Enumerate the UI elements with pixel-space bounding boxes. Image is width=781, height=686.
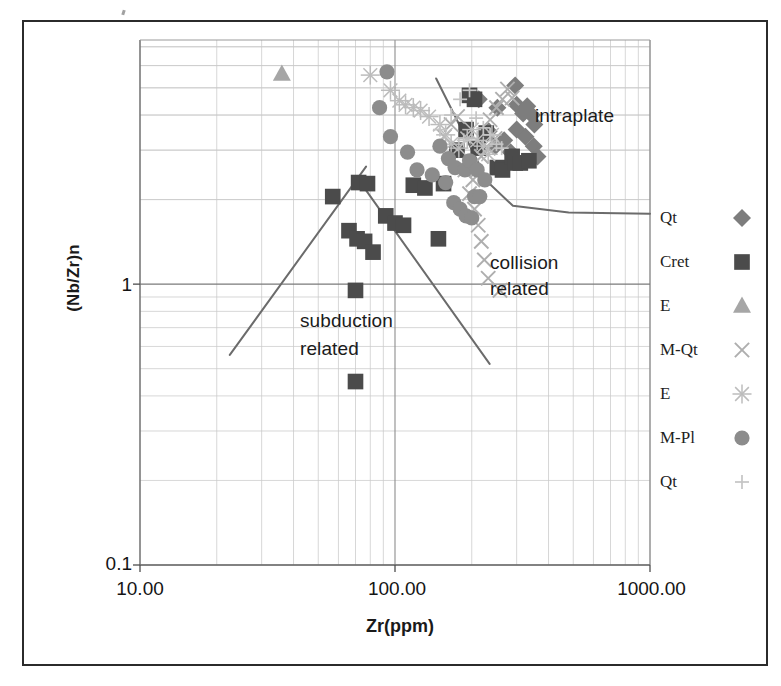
x-icon (722, 338, 762, 362)
data-point-square (348, 283, 364, 299)
legend-item-label: M-Qt (660, 340, 722, 360)
data-point-triangle (273, 65, 291, 81)
data-point-asterisk (420, 107, 439, 126)
data-point-circle (379, 64, 394, 79)
legend-item-label: M-Pl (660, 428, 722, 448)
circle-icon (722, 426, 762, 450)
legend-item-label: Cret (660, 252, 722, 272)
data-point-square (348, 374, 364, 390)
annotation-collision: collision (490, 252, 559, 274)
data-point-square (325, 189, 341, 205)
annotation-intraplate: intraplate (535, 105, 614, 127)
figure-root: (Nb/Zr)n Zr(ppm) 10.00 100.00 1000.00 1 … (0, 0, 781, 686)
legend-item-e-2[interactable]: E (660, 284, 768, 328)
legend-item-label: Qt (660, 208, 722, 228)
data-point-circle (400, 145, 415, 160)
legend-item-m-qt-3[interactable]: M-Qt (660, 328, 768, 372)
data-point-square (521, 153, 537, 169)
legend-item-m-pl-5[interactable]: M-Pl (660, 416, 768, 460)
data-point-square (417, 180, 433, 196)
data-point-circle (432, 139, 447, 154)
data-point-circle (472, 189, 487, 204)
y-tick-label-1: 1 (72, 274, 132, 296)
data-point-circle (438, 175, 453, 190)
x-tick-label-100: 100.00 (347, 578, 447, 600)
asterisk-icon (722, 382, 762, 406)
data-point-square (365, 244, 381, 260)
x-tick-label-1000: 1000.00 (594, 578, 709, 600)
diamond-icon (722, 206, 762, 230)
legend-item-qt-6[interactable]: Qt (660, 460, 768, 504)
y-tick-label-0-1: 0.1 (72, 553, 132, 575)
plus-icon (722, 470, 762, 494)
annotation-subduction: subduction (300, 310, 393, 332)
legend: QtCretEM-QtEM-PlQt (660, 196, 768, 504)
data-point-x (474, 234, 488, 248)
annotation-subduction-line2: related (300, 338, 359, 360)
legend-item-qt-0[interactable]: Qt (660, 196, 768, 240)
data-point-circle (383, 129, 398, 144)
data-point-asterisk (462, 120, 481, 139)
data-point-asterisk (381, 81, 400, 100)
x-tick-label-10: 10.00 (90, 578, 190, 600)
legend-item-e-4[interactable]: E (660, 372, 768, 416)
data-point-circle (441, 151, 456, 166)
square-icon (722, 250, 762, 274)
data-point-square (360, 176, 376, 192)
data-point-asterisk (361, 66, 380, 85)
data-point-circle (372, 100, 387, 115)
legend-item-label: Qt (660, 472, 722, 492)
triangle-icon (722, 294, 762, 318)
data-point-circle (425, 167, 440, 182)
data-point-asterisk (396, 95, 415, 114)
legend-item-cret-1[interactable]: Cret (660, 240, 768, 284)
data-point-square (396, 217, 412, 233)
data-point-circle (464, 210, 479, 225)
legend-item-label: E (660, 296, 722, 316)
x-axis-label: Zr(ppm) (300, 616, 500, 637)
data-point-circle (409, 162, 424, 177)
annotation-collision-line2: related (490, 278, 549, 300)
data-point-square (431, 231, 447, 247)
legend-item-label: E (660, 384, 722, 404)
data-point-circle (477, 172, 492, 187)
